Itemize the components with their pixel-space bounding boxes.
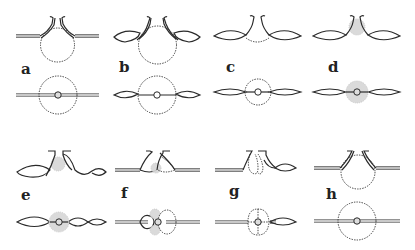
panel-label-e: e (21, 188, 31, 203)
panel-a-side-view (16, 17, 99, 62)
panel-f (115, 151, 200, 235)
panel-f-top-view (115, 209, 200, 235)
panel-b-side-view (114, 17, 200, 64)
panel-h-side-view (314, 151, 400, 189)
panel-c-top-view (214, 79, 301, 105)
panel-label-d: d (328, 60, 339, 75)
panel-label-b: b (119, 60, 130, 75)
panel-c-side-view (214, 16, 301, 42)
panel-label-g: g (229, 184, 240, 199)
figure-eight-panels: a b c d e f g h (0, 0, 415, 250)
panel-b-top-view (114, 76, 200, 114)
panel-label-c: c (226, 60, 235, 75)
panel-h-top-view (314, 202, 400, 240)
panel-label-h: h (326, 187, 337, 202)
diagram-canvas (0, 0, 415, 250)
panel-label-f: f (121, 186, 127, 201)
panel-g-top-view (215, 209, 296, 235)
panel-a-top-view (16, 76, 99, 114)
panel-e-top-view (17, 212, 106, 232)
panel-d (313, 16, 400, 103)
panel-label-a: a (21, 62, 31, 77)
panel-d-side-view (313, 16, 400, 40)
panel-g-side-view (215, 151, 296, 174)
panel-f-side-view (115, 151, 200, 173)
panel-e-side-view (17, 151, 106, 177)
panel-g (215, 151, 296, 235)
panel-d-top-view (313, 81, 400, 103)
